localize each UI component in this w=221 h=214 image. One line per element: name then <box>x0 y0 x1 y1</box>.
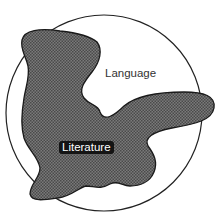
language-literature-diagram <box>0 0 221 214</box>
literature-label: Literature <box>59 141 114 154</box>
language-label: Language <box>105 66 156 80</box>
